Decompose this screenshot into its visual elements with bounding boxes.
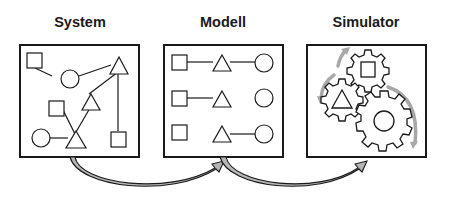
square-shape (49, 101, 64, 116)
square-shape (111, 132, 126, 147)
flow-arrow-system-to-modell (70, 157, 224, 186)
modell-panel (164, 45, 283, 157)
square-shape (172, 91, 187, 106)
square-shape (172, 55, 187, 70)
square-shape (361, 62, 375, 77)
system-panel (20, 45, 139, 157)
circle-shape (61, 70, 79, 88)
circle-shape (32, 129, 50, 147)
gear-icon-triangle (321, 79, 363, 121)
square-shape (172, 125, 187, 140)
curved-arrow-icon (220, 157, 367, 186)
circle-shape (374, 111, 394, 131)
diagram-canvas (0, 0, 451, 200)
circle-shape (255, 54, 273, 72)
square-shape (27, 53, 42, 68)
curved-arrow-icon (70, 157, 224, 186)
circle-shape (255, 89, 273, 107)
flow-arrow-modell-to-simulator (220, 157, 367, 186)
simulator-panel (307, 45, 426, 157)
circle-shape (255, 125, 273, 143)
